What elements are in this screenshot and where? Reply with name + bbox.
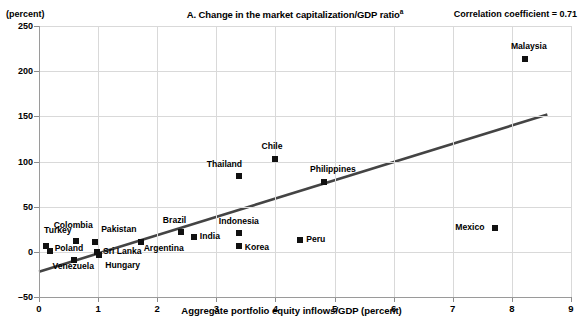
y-axis-tick-label: 250 [0, 21, 33, 31]
data-point-label: Peru [306, 234, 325, 244]
x-axis-tick-mark [571, 297, 572, 302]
y-axis-tick-label: 200 [0, 66, 33, 76]
y-axis-tick-label: –50 [0, 292, 33, 302]
data-point-label: Indonesia [219, 216, 259, 226]
data-point-marker [96, 252, 102, 258]
data-point-marker [297, 237, 303, 243]
chart-title-text: A. Change in the market capitalization/G… [187, 9, 400, 20]
y-axis-unit-label: (percent) [6, 9, 45, 19]
data-point-label: Thailand [207, 159, 242, 169]
y-axis-tick-label: 150 [0, 111, 33, 121]
data-point-label: Argentina [144, 243, 184, 253]
data-point-marker [272, 156, 278, 162]
x-axis-line [39, 297, 571, 298]
data-point-label: Mexico [455, 222, 484, 232]
data-point-marker [92, 239, 98, 245]
data-point-label: Hungary [105, 260, 140, 270]
correlation-coefficient-label: Correlation coefficient = 0.71 [454, 9, 577, 19]
gridline-horizontal [39, 26, 571, 27]
data-point-marker [191, 234, 197, 240]
data-point-marker [321, 179, 327, 185]
gridline-horizontal [39, 116, 571, 117]
data-point-marker [236, 173, 242, 179]
gridline-vertical [571, 26, 572, 297]
data-point-label: India [200, 231, 220, 241]
gridline-horizontal [39, 162, 571, 163]
data-point-label: Colombia [54, 220, 93, 230]
y-axis-tick-label: 0 [0, 247, 33, 257]
data-point-label: Sri Lanka [103, 246, 142, 256]
chart-title: A. Change in the market capitalization/G… [150, 8, 440, 20]
data-point-marker [178, 229, 184, 235]
x-axis-title: Aggregate portfolio equity inflows/GDP (… [0, 305, 583, 316]
data-point-marker [236, 243, 242, 249]
y-axis-tick-label: 100 [0, 157, 33, 167]
plot-area: 0123456789250200150100500–50TurkeyPoland… [39, 26, 571, 297]
data-point-label: Korea [245, 242, 269, 252]
data-point-label: Malaysia [511, 41, 547, 51]
data-point-label: Pakistan [101, 224, 136, 234]
data-point-label: Venezuela [52, 261, 94, 271]
data-point-label: Philippines [310, 164, 356, 174]
chart-title-footnote-marker: a [400, 8, 404, 15]
data-point-marker [73, 238, 79, 244]
data-point-label: Poland [55, 243, 84, 253]
data-point-marker [236, 230, 242, 236]
data-point-marker [522, 56, 528, 62]
data-point-label: Brazil [163, 215, 186, 225]
y-axis-line [39, 26, 40, 297]
data-point-marker [47, 248, 53, 254]
y-axis-tick-label: 50 [0, 202, 33, 212]
data-point-marker [492, 225, 498, 231]
gridline-horizontal [39, 207, 571, 208]
chart-container: (percent) A. Change in the market capita… [0, 0, 583, 327]
gridline-horizontal [39, 71, 571, 72]
data-point-label: Chile [261, 141, 282, 151]
